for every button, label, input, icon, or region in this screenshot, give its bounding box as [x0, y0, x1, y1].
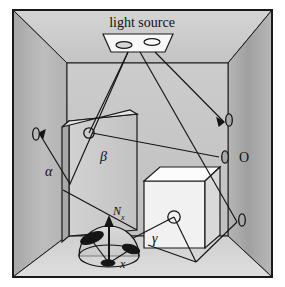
beta-label: β [99, 149, 107, 164]
light-source-panel [103, 34, 173, 52]
eye-left-wall-icon [33, 128, 40, 140]
eye-right-middle-icon [222, 151, 229, 163]
figure-container: light source α β γ N x x O [0, 0, 285, 287]
normal-subscript-label: x [120, 213, 125, 222]
eye-right-lower-icon [239, 214, 246, 226]
gamma-label: γ [152, 231, 158, 246]
alpha-label: α [45, 164, 53, 179]
lamp-icon-right [144, 39, 160, 46]
room-perspective-diagram: light source α β γ N x x O [0, 0, 285, 287]
light-source-fixture [103, 34, 173, 52]
point-x-label: x [119, 257, 126, 271]
eye-o-label: O [239, 150, 249, 165]
lamp-icon-left [116, 42, 132, 49]
light-source-label: light source [109, 15, 175, 30]
tall-panel-front-face [69, 114, 137, 236]
eye-right-upper-icon [226, 114, 233, 126]
